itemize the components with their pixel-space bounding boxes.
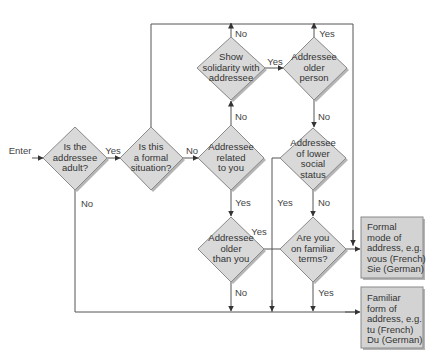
- text-line: Formal: [367, 222, 426, 233]
- label-formal-no: No: [186, 145, 198, 156]
- decision-older-than-you-text: Addressee older than you: [208, 233, 253, 265]
- decision-solidarity-text: Show solidarity with addressee: [202, 52, 259, 84]
- text-line: terms?: [291, 254, 335, 265]
- label-related-no: No: [235, 111, 247, 122]
- text-line: status: [290, 170, 335, 181]
- label-lower-status-yes: Yes: [277, 197, 293, 208]
- edge-lower-status-yes: [272, 158, 280, 312]
- text-line: Addressee: [290, 138, 335, 149]
- decision-lower-status-text: Addressee of lower social status: [290, 138, 335, 180]
- text-line: Is this: [131, 142, 172, 153]
- label-older-person-no: No: [318, 111, 330, 122]
- label-familiar-terms-yes: Yes: [318, 287, 334, 298]
- decision-adult-text: Is the addressee adult?: [53, 142, 97, 174]
- enter-label: Enter: [9, 145, 32, 156]
- text-line: Addressee: [208, 142, 253, 153]
- label-solidarity-yes: Yes: [267, 56, 283, 67]
- flowchart-forms-of-address: Enter Is the addressee adult? Is this a …: [0, 0, 445, 360]
- text-line: Are you: [291, 233, 335, 244]
- text-line: address, e.g.: [367, 314, 422, 325]
- text-line: Du (German): [367, 335, 422, 346]
- text-line: Sie (German): [367, 264, 426, 275]
- decision-older-person-text: Addressee older person: [291, 52, 336, 84]
- label-older-than-you-no: No: [235, 287, 247, 298]
- text-line: Show: [202, 52, 259, 63]
- label-lower-status-no: No: [318, 197, 330, 208]
- label-adult-yes: Yes: [105, 145, 121, 156]
- text-line: situation?: [131, 163, 172, 174]
- text-line: person: [291, 73, 336, 84]
- decision-formal-text: Is this a formal situation?: [131, 142, 172, 174]
- decision-related-text: Addressee related to you: [208, 142, 253, 174]
- decision-familiar-terms-text: Are you on familiar terms?: [291, 233, 335, 265]
- label-older-than-you-yes: Yes: [251, 226, 267, 237]
- text-line: addressee: [202, 73, 259, 84]
- text-line: social: [290, 159, 335, 170]
- text-line: adult?: [53, 163, 97, 174]
- label-related-yes: Yes: [235, 197, 251, 208]
- label-older-person-yes: Yes: [319, 28, 335, 39]
- text-line: address, e.g.: [367, 243, 426, 254]
- outcome-formal-text: Formal mode of address, e.g. vous (Frenc…: [367, 222, 426, 275]
- text-line: to you: [208, 163, 253, 174]
- label-solidarity-no: No: [235, 28, 247, 39]
- text-line: Is the: [53, 142, 97, 153]
- label-adult-no: No: [81, 198, 93, 209]
- text-line: Addressee: [208, 233, 253, 244]
- text-line: Familiar: [367, 293, 422, 304]
- outcome-familiar-text: Familiar form of address, e.g. tu (Frenc…: [367, 293, 422, 346]
- text-line: Addressee: [291, 52, 336, 63]
- text-line: than you: [208, 254, 253, 265]
